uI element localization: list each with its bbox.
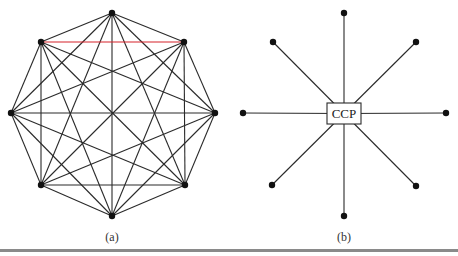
- star-node-left: [240, 110, 246, 116]
- mesh-node-n2-right: [212, 110, 218, 116]
- mesh-node-n5-bottom-left: [38, 182, 44, 188]
- star-node-bottom-right: [413, 183, 419, 189]
- mesh-nodes: [8, 10, 218, 219]
- ccp-label: CCP: [332, 106, 357, 121]
- mesh-edge: [41, 13, 112, 185]
- mesh-node-n4-bottom: [109, 213, 115, 219]
- caption-b: (b): [337, 230, 351, 244]
- star-node-right: [443, 110, 449, 116]
- mesh-node-n3-bottom-right: [182, 182, 188, 188]
- figure-diagram: CCP (a) (b): [0, 0, 458, 256]
- mesh-edge: [41, 113, 215, 185]
- star-node-top: [341, 10, 347, 16]
- mesh-node-n7-top-left: [38, 39, 44, 45]
- mesh-node-n6-left: [8, 110, 14, 116]
- star-node-top-left: [270, 39, 276, 45]
- star-node-top-right: [413, 39, 419, 45]
- star-node-bottom-left: [269, 182, 275, 188]
- star-node-bottom: [341, 213, 347, 219]
- mesh-node-n0-top: [109, 10, 115, 16]
- bottom-rule: [0, 249, 458, 252]
- mesh-node-n1-top-right: [181, 39, 187, 45]
- caption-a: (a): [105, 230, 118, 244]
